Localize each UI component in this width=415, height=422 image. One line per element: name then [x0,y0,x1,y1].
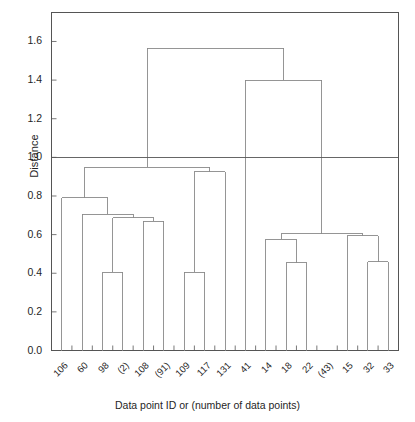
y-tick-label: 0.2 [8,305,42,317]
y-tick-label: 1.2 [8,112,42,124]
dendrogram-chart: Distance Data point ID or (number of dat… [0,0,415,422]
y-tick-label: 0.6 [8,228,42,240]
dendrogram-plot [0,0,415,422]
y-tick-label: 0.8 [8,189,42,201]
y-tick-label: 1.6 [8,34,42,46]
y-tick-label: 0.4 [8,266,42,278]
y-tick-label: 1.4 [8,73,42,85]
y-tick-label: 0.0 [8,344,42,356]
y-tick-label: 1.0 [8,150,42,162]
